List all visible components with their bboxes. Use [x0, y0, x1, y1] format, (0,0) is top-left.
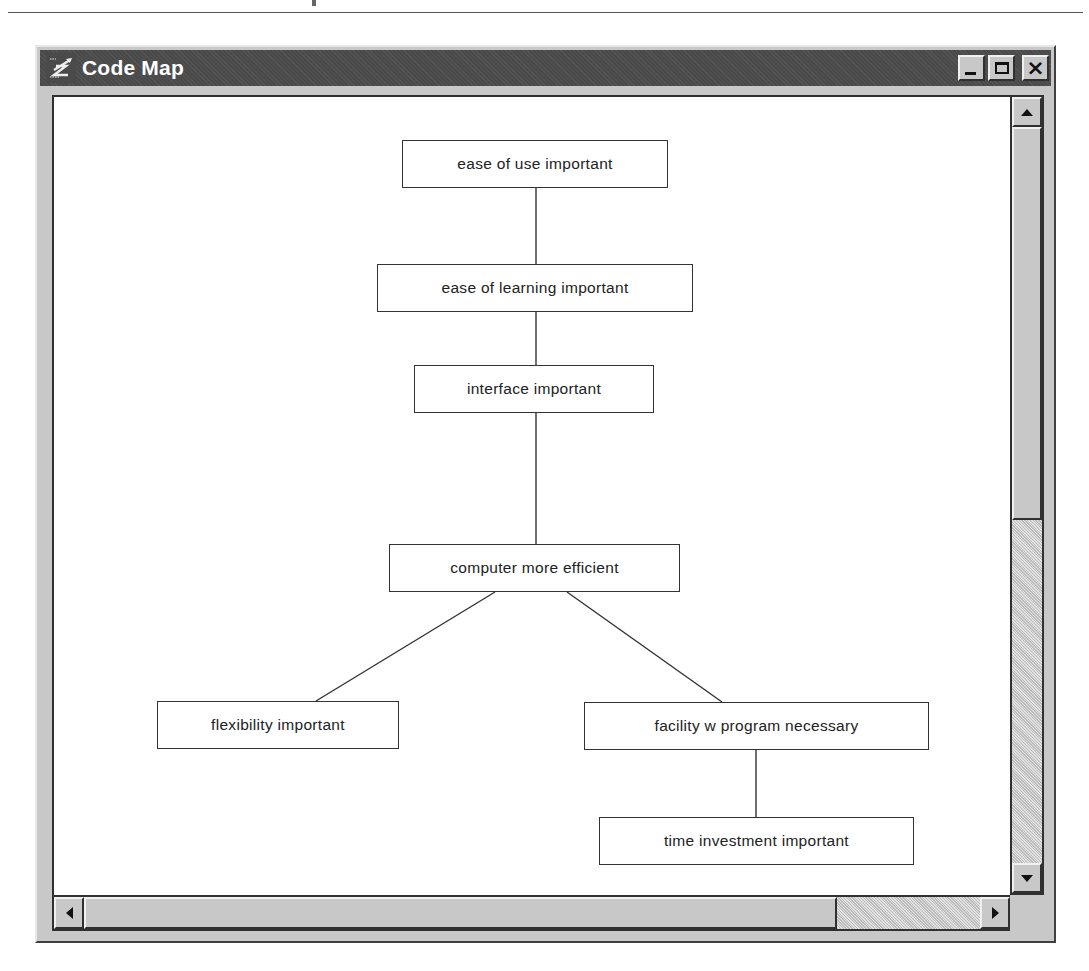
maximize-icon: [995, 62, 1009, 74]
map-edge: [567, 592, 722, 702]
map-node[interactable]: facility w program necessary: [584, 702, 929, 750]
vertical-scroll-thumb[interactable]: [1012, 127, 1042, 520]
scroll-right-arrow-icon: [992, 907, 999, 919]
page-header-rule: [8, 12, 1083, 13]
scrollbar-corner: [1010, 895, 1044, 931]
edge-layer: [54, 97, 1012, 895]
map-node[interactable]: computer more efficient: [389, 544, 680, 592]
map-node-label: computer more efficient: [450, 559, 619, 577]
maximize-button[interactable]: [988, 55, 1015, 81]
map-edge: [316, 592, 495, 701]
scroll-down-arrow-icon: [1021, 875, 1033, 882]
map-node[interactable]: interface important: [414, 365, 654, 413]
map-node-label: ease of learning important: [441, 279, 628, 297]
scroll-up-arrow-icon: [1021, 109, 1033, 116]
title-bar[interactable]: Code Map ×: [40, 50, 1051, 86]
map-node-label: time investment important: [664, 832, 849, 850]
code-map-app-icon[interactable]: [46, 53, 76, 83]
code-map-window: Code Map × ease of use importantease of …: [35, 45, 1056, 943]
map-node-label: facility w program necessary: [655, 717, 859, 735]
map-node[interactable]: time investment important: [599, 817, 914, 865]
map-node-label: flexibility important: [211, 716, 345, 734]
map-node[interactable]: flexibility important: [157, 701, 399, 749]
map-node[interactable]: ease of use important: [402, 140, 668, 188]
window-title: Code Map: [82, 56, 184, 80]
scroll-down-button[interactable]: [1012, 863, 1042, 893]
scroll-up-button[interactable]: [1012, 97, 1042, 127]
code-map-canvas[interactable]: ease of use importantease of learning im…: [52, 95, 1012, 895]
scroll-right-button[interactable]: [980, 897, 1010, 929]
horizontal-scroll-thumb[interactable]: [84, 897, 837, 929]
horizontal-scrollbar[interactable]: [52, 895, 1012, 931]
scroll-left-arrow-icon: [66, 907, 73, 919]
close-icon: ×: [1026, 57, 1044, 79]
scroll-left-button[interactable]: [54, 897, 84, 929]
map-node-label: ease of use important: [457, 155, 612, 173]
map-diagram: ease of use importantease of learning im…: [54, 97, 1012, 895]
minimize-button[interactable]: [958, 55, 985, 81]
map-node-label: interface important: [467, 380, 601, 398]
close-button[interactable]: ×: [1022, 55, 1049, 81]
minimize-icon: [965, 72, 976, 75]
page-header-fragment: [312, 0, 316, 6]
vertical-scrollbar[interactable]: [1010, 95, 1044, 895]
window-controls: ×: [958, 55, 1049, 81]
map-node[interactable]: ease of learning important: [377, 264, 693, 312]
